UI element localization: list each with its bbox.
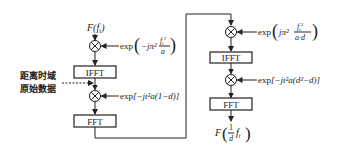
multiplier-4-icon xyxy=(226,75,237,86)
svg-text:): ) xyxy=(245,124,251,143)
input-label: F(ft) xyxy=(86,22,105,35)
svg-text:ft2: ft2 xyxy=(160,36,167,46)
svg-text:exp: exp xyxy=(258,27,271,37)
factor-1-expression: exp ( −jπ² ft2 a ) xyxy=(120,35,176,56)
svg-text:a: a xyxy=(161,47,165,56)
svg-text:): ) xyxy=(170,35,176,56)
right-chain: exp ( jπ² ft2 a·d ) IFFT exp[−jt²a(d²−d)… xyxy=(210,21,321,143)
multiplier-2-icon xyxy=(90,91,101,102)
svg-text:(: ( xyxy=(134,35,140,56)
flow-diagram: F(ft) exp ( −jπ² ft2 a ) IFFT 距离时域 原始数据 xyxy=(0,0,339,152)
fft-label: FFT xyxy=(87,117,103,127)
svg-text:ft2: ft2 xyxy=(297,22,304,32)
output-label: F ( 1 d ft ) xyxy=(214,123,251,143)
svg-text:exp: exp xyxy=(120,41,133,51)
svg-text:(: ( xyxy=(272,21,278,42)
svg-text:a·d: a·d xyxy=(295,33,306,42)
fft-label-right: FFT xyxy=(223,100,239,110)
factor-2-expression: exp[−jt²a(1−d)] xyxy=(120,91,180,101)
ifft-label-right: IFFT xyxy=(222,53,241,63)
svg-text:1: 1 xyxy=(229,123,233,132)
svg-text:jπ²: jπ² xyxy=(278,27,289,37)
svg-text:ft: ft xyxy=(236,127,241,139)
multiplier-3-icon xyxy=(226,27,237,38)
svg-text:F: F xyxy=(214,127,222,138)
side-input-label-line1: 距离时域 xyxy=(20,70,56,81)
svg-text:): ) xyxy=(312,21,318,42)
factor-4-expression: exp[−jt²a(d²−d)] xyxy=(258,75,321,85)
side-input-label-line2: 原始数据 xyxy=(20,83,56,94)
factor-3-expression: exp ( jπ² ft2 a·d ) xyxy=(258,21,318,42)
ifft-label: IFFT xyxy=(86,68,105,78)
left-chain: F(ft) exp ( −jπ² ft2 a ) IFFT 距离时域 原始数据 xyxy=(20,22,180,127)
svg-text:(: ( xyxy=(222,124,228,143)
svg-text:d: d xyxy=(229,134,234,143)
svg-text:−jπ²: −jπ² xyxy=(141,41,157,51)
multiplier-1-icon xyxy=(90,41,101,52)
